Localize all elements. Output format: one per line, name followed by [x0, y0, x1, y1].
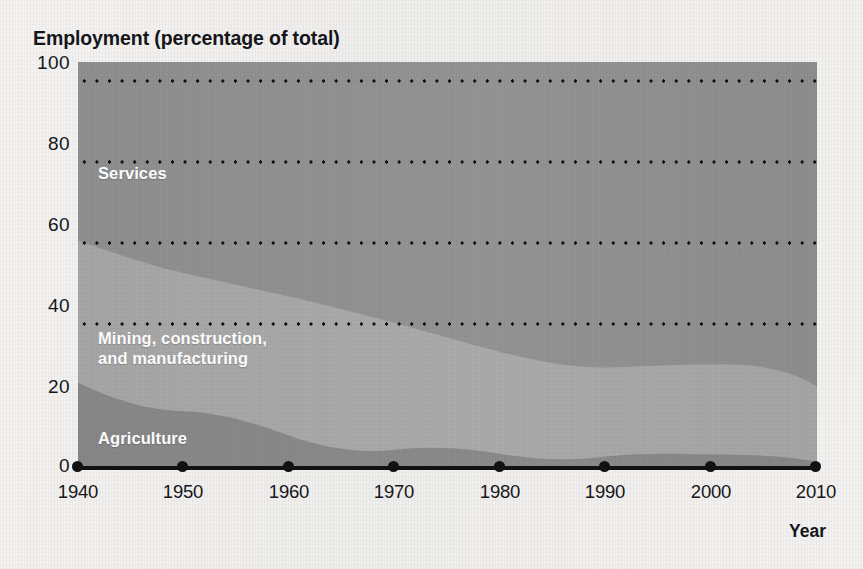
- stacked-area-svg: [78, 62, 817, 468]
- band-label-services: Services: [98, 163, 167, 183]
- x-tick-dot-1970: [388, 461, 399, 472]
- x-tick-1990: 1990: [565, 481, 645, 503]
- band-label-mining: Mining, construction, and manufacturing: [98, 328, 267, 368]
- x-tick-1970: 1970: [354, 481, 434, 503]
- gridline-40: [78, 241, 817, 245]
- y-tick-20: 20: [8, 376, 70, 398]
- x-axis-title: Year: [789, 521, 826, 542]
- x-tick-dot-1980: [494, 461, 505, 472]
- x-tick-dot-2010: [810, 461, 821, 472]
- x-tick-2010: 2010: [776, 481, 856, 503]
- x-tick-dot-1990: [599, 461, 610, 472]
- y-axis-title: Employment (percentage of total): [33, 27, 340, 50]
- y-tick-80: 80: [8, 133, 70, 155]
- gridline-20: [78, 322, 817, 326]
- y-tick-40: 40: [8, 295, 70, 317]
- y-tick-0: 0: [8, 455, 70, 477]
- x-tick-dot-2000: [705, 461, 716, 472]
- plot-area: [78, 62, 817, 468]
- gridline-60: [78, 160, 817, 164]
- gridline-80: [78, 79, 817, 83]
- x-tick-dot-1960: [283, 461, 294, 472]
- x-tick-dot-1950: [177, 461, 188, 472]
- x-tick-1950: 1950: [143, 481, 223, 503]
- chart-figure: Employment (percentage of total): [0, 0, 863, 569]
- x-tick-1940: 1940: [38, 481, 118, 503]
- y-tick-60: 60: [8, 214, 70, 236]
- x-tick-dot-1940: [72, 461, 83, 472]
- x-tick-1980: 1980: [460, 481, 540, 503]
- x-tick-2000: 2000: [671, 481, 751, 503]
- band-label-agriculture: Agriculture: [98, 428, 187, 448]
- y-tick-100: 100: [8, 52, 70, 74]
- x-tick-1960: 1960: [249, 481, 329, 503]
